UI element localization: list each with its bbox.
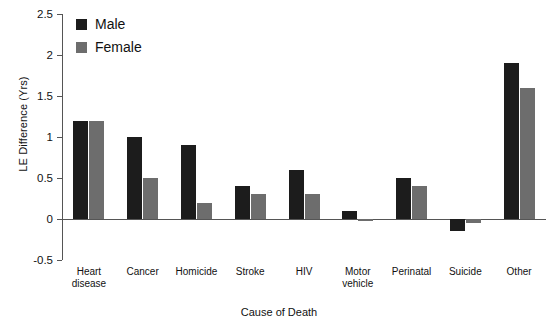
bar-male xyxy=(289,170,304,219)
bar-female xyxy=(358,219,373,221)
bar-female xyxy=(466,219,481,223)
bar-female xyxy=(520,88,535,219)
bar-male xyxy=(342,211,357,219)
x-axis-label: Cancer xyxy=(116,266,170,278)
legend-swatch-icon xyxy=(76,42,87,53)
y-tick-mark xyxy=(57,219,62,220)
bar-male xyxy=(504,63,519,219)
legend-item-male: Male xyxy=(76,16,142,32)
x-axis-label: Suicide xyxy=(438,266,492,278)
x-axis-label: Heartdisease xyxy=(62,266,116,289)
legend-item-female: Female xyxy=(76,39,142,55)
y-tick-mark xyxy=(57,260,62,261)
y-tick-label: -0.5 xyxy=(33,254,53,266)
y-tick-mark xyxy=(57,14,62,15)
bar-male xyxy=(127,137,142,219)
bar-male xyxy=(73,121,88,219)
y-tick-label: 1 xyxy=(47,131,53,143)
bar-chart: LE Difference (Yrs) 2.521.510.50-0.5 Hea… xyxy=(0,0,558,330)
y-tick-mark xyxy=(57,137,62,138)
y-tick-label: 0.5 xyxy=(37,172,53,184)
bar-male xyxy=(235,186,250,219)
legend-label: Male xyxy=(95,16,125,32)
y-tick-mark xyxy=(57,96,62,97)
x-axis-label: Perinatal xyxy=(385,266,439,278)
bar-female xyxy=(143,178,158,219)
x-axis-label: Other xyxy=(492,266,546,278)
legend-swatch-icon xyxy=(76,19,87,30)
x-axis-title: Cause of Death xyxy=(0,306,558,318)
y-tick-label: 2.5 xyxy=(37,8,53,20)
y-tick-label: 1.5 xyxy=(37,90,53,102)
bar-female xyxy=(305,194,320,219)
y-axis-line xyxy=(62,14,63,260)
legend-label: Female xyxy=(95,39,142,55)
bar-male xyxy=(181,145,196,219)
x-axis-label: Motorvehicle xyxy=(331,266,385,289)
x-axis-label: Stroke xyxy=(223,266,277,278)
chart-legend: MaleFemale xyxy=(76,16,142,62)
y-tick-label: 0 xyxy=(47,213,53,225)
y-tick-mark xyxy=(57,55,62,56)
y-tick-mark xyxy=(57,178,62,179)
bar-female xyxy=(197,203,212,219)
bar-female xyxy=(412,186,427,219)
x-axis-label: HIV xyxy=(277,266,331,278)
x-axis-label: Homicide xyxy=(170,266,224,278)
y-axis-title: LE Difference (Yrs) xyxy=(17,54,29,194)
bar-female xyxy=(89,121,104,219)
y-tick-label: 2 xyxy=(47,49,53,61)
bar-male xyxy=(450,219,465,231)
bar-male xyxy=(396,178,411,219)
bar-female xyxy=(251,194,266,219)
